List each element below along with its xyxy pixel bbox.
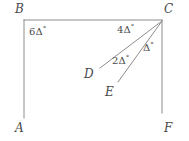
- angle-ecf-degree-symbol: °: [150, 41, 154, 49]
- vertex-label-e: E: [105, 86, 114, 98]
- vertex-label-c: C: [164, 3, 173, 15]
- figure-canvas: [0, 0, 189, 141]
- vertex-label-f: F: [164, 122, 173, 134]
- angle-b-delta-symbol: Δ: [35, 26, 42, 37]
- angle-b-degree-symbol: °: [43, 25, 47, 33]
- angle-label-bcd: 4Δ°: [117, 24, 134, 35]
- angle-dce-degree-symbol: °: [126, 54, 130, 62]
- angle-label-ecf: Δ°: [143, 42, 154, 53]
- geometry-figure: B C A F D E 6Δ° 4Δ° 2Δ° Δ°: [0, 0, 189, 141]
- angle-bcd-delta-symbol: Δ: [123, 24, 130, 35]
- vertex-label-b: B: [15, 3, 24, 15]
- vertex-label-a: A: [15, 122, 24, 134]
- vertex-label-d: D: [84, 68, 94, 80]
- angle-dce-delta-symbol: Δ: [118, 55, 125, 66]
- angle-bcd-degree-symbol: °: [131, 23, 135, 31]
- angle-label-dce: 2Δ°: [112, 55, 129, 66]
- angle-label-b: 6Δ°: [29, 26, 46, 37]
